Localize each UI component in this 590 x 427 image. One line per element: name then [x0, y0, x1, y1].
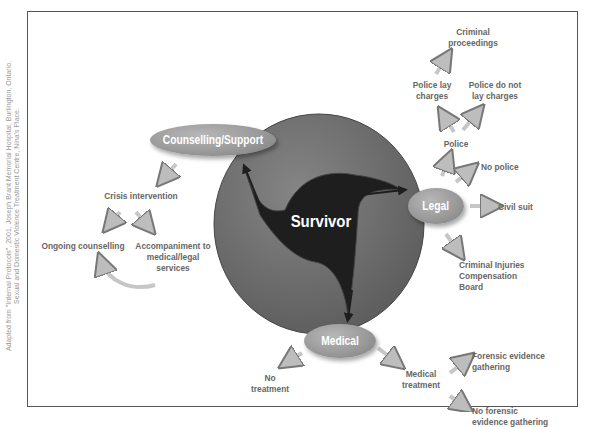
- label-criminal-proceedings: Criminal proceedings: [442, 26, 504, 48]
- node-medical[interactable]: Medical: [304, 324, 376, 358]
- label-forensic-evidence: Forensic evidence gathering: [472, 350, 545, 372]
- label-police-do-not-lay: Police do not lay charges: [464, 79, 526, 101]
- label-no-forensic: No forensic evidence gathering: [472, 405, 548, 427]
- arrow-legal-police: [442, 160, 448, 176]
- label-medical-treatment: Medical treatment: [399, 368, 443, 390]
- arrow-treat-noforensic: [450, 396, 464, 406]
- arrow-legal-cicb: [446, 234, 458, 251]
- label-ongoing-counselling: Ongoing counselling: [41, 240, 120, 251]
- arrow-crisis-accompaniment: [136, 212, 148, 226]
- arrow-crisis-ongoing: [110, 212, 120, 224]
- label-cicb: Criminal Injuries Compensation Board: [459, 259, 525, 292]
- arrow-medical-treat: [378, 348, 396, 362]
- node-legal-label: Legal: [423, 199, 450, 213]
- label-civil-suit: Civil suit: [498, 201, 533, 212]
- arrow-police-lay: [444, 116, 454, 132]
- label-crisis-intervention: Crisis intervention: [101, 190, 180, 201]
- node-medical-label: Medical: [321, 334, 358, 348]
- label-accompaniment: Accompaniment to medical/legal services: [133, 240, 212, 273]
- label-police-lay-charges: Police lay charges: [407, 79, 456, 101]
- node-legal[interactable]: Legal: [408, 188, 464, 224]
- node-counselling-support[interactable]: Counselling/Support: [150, 124, 276, 156]
- arrow-lay-criminal: [436, 58, 446, 74]
- arrow-counselling-crisis: [164, 164, 176, 178]
- arrow-treat-forensic: [450, 360, 466, 373]
- arrow-medical-notreat: [288, 353, 302, 362]
- label-no-police: No police: [481, 161, 519, 172]
- survivor-label: Survivor: [287, 212, 356, 232]
- arrow-legal-nopolice: [456, 170, 470, 182]
- node-counselling-label: Counselling/Support: [163, 133, 263, 147]
- label-police: Police: [438, 138, 473, 149]
- label-no-treatment: No treatment: [251, 372, 290, 394]
- arrow-police-nolay: [463, 113, 477, 130]
